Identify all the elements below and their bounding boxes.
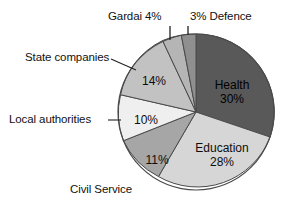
leader-line-state-companies (111, 59, 136, 70)
external-label-defence: 3% Defence (190, 10, 252, 23)
slice-label-education-value: 28% (210, 155, 234, 169)
slice-label-health-value: 30% (220, 92, 244, 106)
external-label-civil-service: Civil Service (70, 183, 132, 196)
external-label-state-companies: State companies (25, 51, 109, 64)
pie-chart: Health 30% Education 28% 11% 10% 14% Gar… (0, 0, 281, 212)
slice-label-health-name: Health (215, 78, 250, 92)
slice-label-civil-service-value: 11% (145, 153, 168, 167)
slice-label-local-authorities-value: 10% (134, 113, 158, 127)
external-label-local-authorities: Local authorities (9, 113, 91, 126)
pie-chart-svg: Health 30% Education 28% 11% 10% 14% (0, 0, 281, 212)
external-label-gardai: Gardai 4% (108, 10, 161, 23)
slice-label-state-companies-value: 14% (142, 74, 166, 88)
slice-label-education-name: Education (195, 141, 248, 155)
